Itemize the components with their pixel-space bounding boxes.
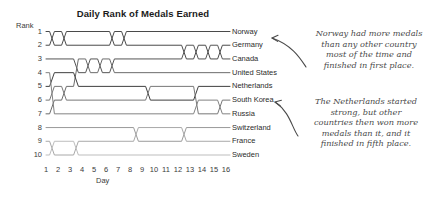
annotation-netherlands: The Netherlands started strong, but othe… bbox=[290, 96, 442, 149]
arrow-head-netherlands bbox=[275, 100, 281, 105]
arrow-head-norway bbox=[272, 35, 278, 41]
chart-figure: Daily Rank of Medals Earned Rank Day 123… bbox=[0, 0, 447, 199]
annotation-norway: Norway had more medals than any other co… bbox=[296, 28, 442, 70]
